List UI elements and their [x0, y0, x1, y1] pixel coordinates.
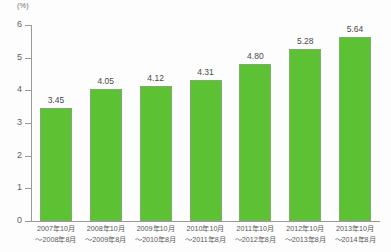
bar-group: 4.80 [239, 25, 271, 221]
x-axis-label: 2007年10月〜2008年8月 [31, 224, 81, 245]
bar [140, 86, 172, 221]
bar-group: 5.64 [339, 25, 371, 221]
x-axis-label-line1: 2013年10月 [336, 224, 374, 233]
y-axis-unit-label: (%) [17, 1, 29, 10]
bar-value-label: 4.05 [81, 76, 131, 86]
x-axis-label-line1: 2007年10月 [37, 224, 75, 233]
bar [190, 80, 222, 221]
x-axis-label-line1: 2010年10月 [186, 224, 224, 233]
bar [40, 108, 72, 221]
bar-value-label: 3.45 [31, 95, 81, 105]
x-axis-label-line2: 〜2011年8月 [181, 235, 231, 246]
bar-group: 4.31 [190, 25, 222, 221]
x-axis-label: 2009年10月〜2010年8月 [131, 224, 181, 245]
y-axis-tick-label: 3 [8, 117, 22, 128]
bar [90, 89, 122, 221]
bar [339, 37, 371, 221]
y-axis-tick-label: 6 [8, 19, 22, 30]
x-axis-line [25, 221, 380, 222]
x-axis-label-line1: 2009年10月 [137, 224, 175, 233]
bar-chart: (%) 6543210 3.454.054.124.314.805.285.64… [0, 0, 391, 252]
x-axis-label: 2013年10月〜2014年8月 [330, 224, 380, 245]
x-axis-label-line1: 2011年10月 [237, 224, 274, 233]
bar-group: 5.28 [289, 25, 321, 221]
x-axis-label: 2008年10月〜2009年8月 [81, 224, 131, 245]
bar-group: 3.45 [40, 25, 72, 221]
bar [289, 49, 321, 221]
x-axis-label-line1: 2012年10月 [286, 224, 324, 233]
x-axis-label-line2: 〜2014年8月 [330, 235, 380, 246]
bar-value-label: 4.80 [230, 51, 280, 61]
y-axis-tick-label: 5 [8, 52, 22, 63]
bar-value-label: 5.28 [280, 36, 330, 46]
x-axis-label-line2: 〜2012年8月 [230, 235, 280, 246]
x-axis-label: 2012年10月〜2013年8月 [280, 224, 330, 245]
y-axis-tick-label: 4 [8, 84, 22, 95]
bar [239, 64, 271, 221]
bar-value-label: 5.64 [330, 24, 380, 34]
bar-group: 4.12 [140, 25, 172, 221]
x-axis-label-line2: 〜2013年8月 [280, 235, 330, 246]
bar-value-label: 4.31 [181, 67, 231, 77]
y-axis-tick-label: 0 [8, 215, 22, 226]
x-axis-label: 2010年10月〜2011年8月 [181, 224, 231, 245]
x-axis-label: 2011年10月〜2012年8月 [230, 224, 280, 245]
y-axis-tick-label: 1 [8, 182, 22, 193]
y-axis-tick-label: 2 [8, 150, 22, 161]
plot-area: 3.454.054.124.314.805.285.64 [31, 25, 380, 221]
x-axis-label-line2: 〜2008年8月 [31, 235, 81, 246]
x-axis-label-line1: 2008年10月 [87, 224, 125, 233]
bar-group: 4.05 [90, 25, 122, 221]
x-axis-label-line2: 〜2009年8月 [81, 235, 131, 246]
bar-value-label: 4.12 [131, 73, 181, 83]
x-axis-label-line2: 〜2010年8月 [131, 235, 181, 246]
y-axis-tick-mark [25, 221, 31, 222]
